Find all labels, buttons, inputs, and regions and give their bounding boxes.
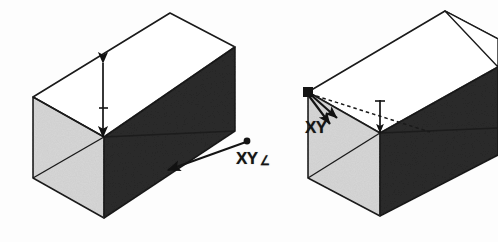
- left-view-xy-text: XY: [236, 149, 258, 168]
- right-view: [304, 11, 498, 216]
- figure-svg: [0, 0, 498, 242]
- left-view-xy-label: XY∠: [236, 150, 270, 167]
- right-view-xy-label: XY: [305, 119, 327, 136]
- right-view-xy-text: XY: [305, 118, 327, 137]
- left-view: [33, 13, 250, 218]
- angle-z-glyph: ∠: [260, 154, 270, 167]
- left-view-leader-origin-node: [244, 138, 251, 145]
- figure-canvas: XY∠ XY: [0, 0, 498, 242]
